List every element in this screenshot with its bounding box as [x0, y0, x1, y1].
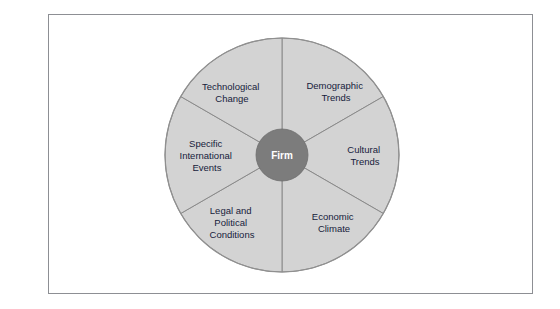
label-economic-climate: Economic Climate [312, 211, 356, 234]
label-cultural-trends: Cultural Trends [347, 144, 382, 167]
label-legal-and-political-conditions: Legal and Political Conditions [210, 205, 255, 240]
environment-wheel-diagram: Demographic Trends Cultural Trends Econo… [0, 0, 560, 309]
firm-hub-label: Firm [271, 150, 293, 161]
